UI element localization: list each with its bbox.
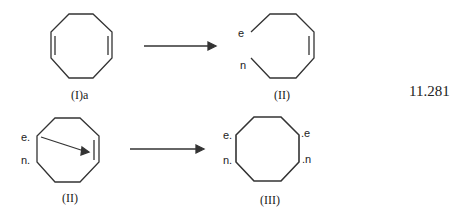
internal-arrow — [41, 137, 84, 151]
label-II: (II) — [274, 88, 290, 102]
octagon-Ia — [51, 14, 112, 78]
label-III: (III) — [260, 193, 280, 207]
mark-n-2: n. — [21, 154, 30, 166]
octagon-II-open — [251, 14, 314, 78]
mark-n: n — [240, 59, 246, 71]
mark-e-2: e. — [21, 131, 30, 143]
octagon-II-b — [37, 118, 99, 182]
arrowhead-2 — [196, 145, 204, 153]
arrowhead-1 — [208, 42, 216, 50]
octagon-III — [236, 117, 299, 181]
mark-n-4: .n — [302, 153, 311, 165]
label-II-b: (II) — [62, 191, 78, 205]
reaction-diagram: (I)a (II) e n e. n. (II) e. n. .e .n (II… — [0, 0, 476, 218]
mark-e: e — [238, 27, 244, 39]
label-Ia: (I)a — [71, 88, 89, 102]
mark-e-4: .e — [301, 127, 310, 139]
equation-number: 11.281 — [409, 83, 450, 100]
mark-n-3: n. — [223, 154, 232, 166]
mark-e-3: e. — [223, 129, 232, 141]
internal-arrowhead — [81, 147, 89, 155]
